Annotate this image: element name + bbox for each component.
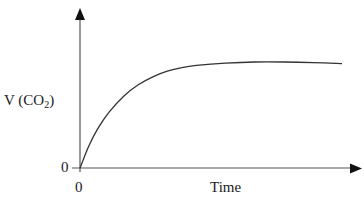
x-axis-arrow-icon [350,164,362,174]
y-tick-label-0: 0 [61,159,69,176]
data-curve [80,62,342,168]
chart-canvas [0,0,364,200]
x-axis-label: Time [210,179,241,196]
y-axis-arrow-icon [75,8,85,20]
x-tick-label-0: 0 [75,179,83,196]
y-axis-label: V (CO2) [4,92,54,110]
